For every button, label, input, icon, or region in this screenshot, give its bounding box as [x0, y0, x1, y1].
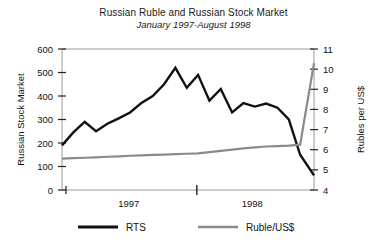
series-layer — [62, 63, 314, 175]
chart-container: Russian Ruble and Russian Stock Market J… — [0, 0, 387, 245]
y2-axis-tick-label: 8 — [323, 104, 328, 115]
y-axis-tick-label: 0 — [48, 185, 53, 196]
x-axis-tick-label: 1998 — [242, 198, 263, 209]
series-line-rts — [62, 68, 314, 176]
legend-label-rts: RTS — [126, 222, 146, 233]
y2-axis-tick-label: 11 — [323, 44, 333, 55]
y2-axis-tick-label: 9 — [323, 84, 328, 95]
chart-plot: 0100200300400500600456789101119971998Rus… — [0, 0, 387, 245]
y2-axis-tick-label: 5 — [323, 164, 328, 175]
y2-axis-tick-label: 6 — [323, 144, 328, 155]
y-axis-tick-label: 100 — [37, 161, 53, 172]
y-axis-tick-label: 300 — [37, 114, 53, 125]
y2-axis-tick-label: 10 — [323, 64, 334, 75]
series-line-ruble-us — [62, 63, 314, 158]
legend-label-ruble-us: Ruble/US$ — [246, 222, 295, 233]
x-axis-tick-label: 1997 — [118, 198, 139, 209]
y2-axis-tick-label: 7 — [323, 124, 328, 135]
y-axis-tick-label: 600 — [37, 44, 53, 55]
axes-layer — [58, 49, 318, 195]
y-axis-tick-label: 400 — [37, 91, 53, 102]
y-axis-title: Russian Stock Market — [15, 73, 26, 166]
y2-axis-tick-label: 4 — [323, 185, 328, 196]
chart-legend: RTSRuble/US$ — [78, 222, 295, 233]
y2-axis-title: Rubles per US$ — [355, 85, 366, 153]
y-axis-tick-label: 200 — [37, 138, 53, 149]
y-axis-tick-label: 500 — [37, 67, 53, 78]
